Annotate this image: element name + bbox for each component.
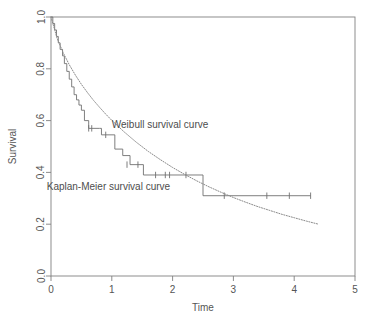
y-axis-tick-label: 0.4 (36, 165, 47, 179)
kaplan-meier-curve-label: Kaplan-Meier survival curve (47, 181, 171, 192)
y-axis-title: Survival (7, 129, 18, 165)
y-axis-tick-label: 0.0 (36, 269, 47, 283)
weibull-curve-label: Weibull survival curve (112, 119, 209, 130)
x-axis-tick-label: 1 (109, 284, 115, 295)
kaplan-meier-step-curve (51, 17, 311, 196)
plot-frame (51, 17, 355, 276)
y-axis-tick-label: 0.6 (36, 113, 47, 127)
y-axis-tick-label: 0.2 (36, 217, 47, 231)
survival-chart: 0123450.00.20.40.60.81.0TimeSurvivalWeib… (0, 0, 372, 324)
x-axis-tick-label: 3 (231, 284, 237, 295)
x-axis-tick-label: 2 (170, 284, 176, 295)
y-axis-tick-label: 1.0 (36, 10, 47, 24)
x-axis-tick-label: 0 (48, 284, 54, 295)
x-axis-tick-label: 4 (291, 284, 297, 295)
x-axis-tick-label: 5 (352, 284, 358, 295)
x-axis-title: Time (192, 302, 214, 313)
y-axis-tick-label: 0.8 (36, 61, 47, 75)
plot-area: 0123450.00.20.40.60.81.0TimeSurvivalWeib… (0, 0, 372, 324)
